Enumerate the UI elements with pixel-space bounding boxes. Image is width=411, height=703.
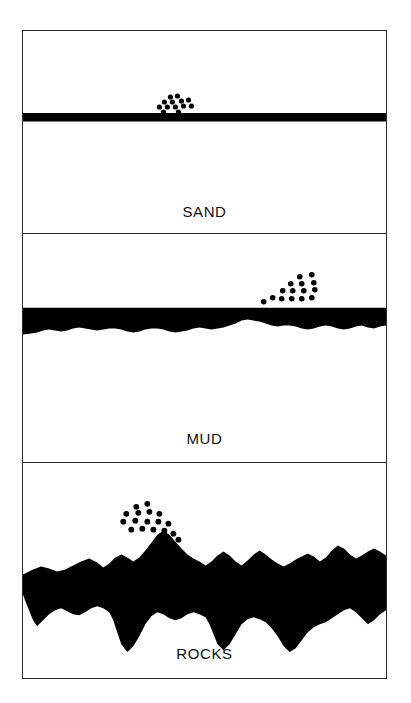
panel-label-sand: SAND <box>23 203 386 220</box>
panel-rocks: ROCKS <box>23 462 386 677</box>
panel-label-rocks: ROCKS <box>23 645 386 662</box>
mud-substrate-band <box>23 234 386 462</box>
panels-frame: SAND <box>22 30 387 679</box>
panel-mud: MUD <box>23 233 386 462</box>
panel-label-mud: MUD <box>23 430 386 447</box>
panel-sand: SAND <box>23 31 386 233</box>
figure-root: SAND <box>0 0 411 703</box>
